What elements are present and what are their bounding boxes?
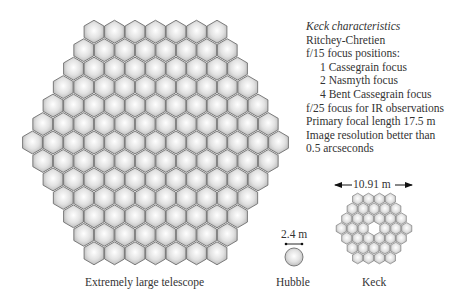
elt-segment (156, 186, 176, 209)
keck-characteristic-line: f/25 focus for IR observations (306, 102, 444, 116)
keck-characteristics-panel: Keck characteristics Ritchey-Chretienf/1… (306, 20, 444, 156)
elt-segment (146, 205, 166, 228)
elt-segment (238, 186, 258, 209)
elt-segment (94, 150, 114, 173)
elt-segment (156, 76, 176, 99)
elt-segment (228, 205, 248, 228)
keck-segment (363, 213, 373, 225)
keck-segment (396, 232, 406, 244)
elt-segment (146, 94, 166, 117)
keck-segment (358, 242, 368, 254)
elt-segment (84, 131, 104, 154)
keck-segment (358, 223, 368, 235)
elt-segment (238, 113, 258, 136)
elt-segment (105, 57, 125, 80)
elt-segment (217, 39, 237, 62)
keck-segment (353, 232, 363, 244)
elt-segment (197, 150, 217, 173)
elt-segment (43, 131, 63, 154)
elt-segment (115, 223, 135, 246)
elt-segment (207, 20, 227, 43)
keck-segment (374, 193, 384, 205)
elt-segment (84, 205, 104, 228)
keck-segment (363, 232, 373, 244)
elt-segment (94, 39, 114, 62)
elt-segment (207, 168, 227, 191)
elt-segment (176, 113, 196, 136)
elt-segment (105, 131, 125, 154)
elt-segment (207, 57, 227, 80)
elt-segment (217, 186, 237, 209)
elt-segment (74, 186, 94, 209)
elt-segment (94, 186, 114, 209)
elt-segment (84, 20, 104, 43)
keck-characteristic-line: 1 Cassegrain focus (306, 61, 444, 75)
elt-segment (146, 242, 166, 265)
elt-caption: Extremely large telescope (85, 276, 204, 288)
keck-segment (391, 203, 401, 215)
elt-segment (64, 168, 84, 191)
elt-segment (146, 57, 166, 80)
hubble-caption: Hubble (276, 276, 310, 288)
keck-characteristic-line: 0.5 arcseconds (306, 142, 444, 156)
elt-segment (176, 150, 196, 173)
keck-segment (347, 203, 357, 215)
elt-segment (105, 20, 125, 43)
keck-segment (342, 213, 352, 225)
elt-segment (217, 113, 237, 136)
keck-segment (369, 203, 379, 215)
elt-segment (43, 168, 63, 191)
elt-segment (74, 223, 94, 246)
elt-segment (187, 94, 207, 117)
elt-segment (105, 94, 125, 117)
keck-segment (358, 203, 368, 215)
elt-segment (197, 39, 217, 62)
elt-segment (146, 168, 166, 191)
elt-segment (74, 39, 94, 62)
elt-segment (135, 223, 155, 246)
elt-segment (187, 131, 207, 154)
elt-segment (53, 150, 73, 173)
keck-segment (391, 242, 401, 254)
elt-segment (207, 94, 227, 117)
elt-segment (166, 242, 186, 265)
keck-segment (342, 232, 352, 244)
elt-segment (94, 76, 114, 99)
elt-segment (228, 131, 248, 154)
elt-segment (176, 186, 196, 209)
elt-segment (187, 20, 207, 43)
elt-segment (105, 205, 125, 228)
elt-segment (33, 150, 53, 173)
elt-segment (53, 186, 73, 209)
elt-segment (74, 113, 94, 136)
elt-segment (217, 150, 237, 173)
keck-segment (391, 223, 401, 235)
keck-mirror-segments (336, 193, 412, 264)
elt-segment (84, 168, 104, 191)
keck-characteristic-line: Image resolution better than (306, 129, 444, 143)
elt-segment (64, 57, 84, 80)
keck-segment (385, 193, 395, 205)
keck-size-label: 10.91 m (353, 178, 391, 190)
keck-caption: Keck (362, 276, 386, 288)
elt-segment (187, 168, 207, 191)
elt-segment (207, 131, 227, 154)
elt-segment (156, 150, 176, 173)
hubble-size-arrow (285, 243, 304, 246)
elt-segment (217, 76, 237, 99)
elt-segment (248, 168, 268, 191)
elt-segment (248, 94, 268, 117)
elt-segment (64, 131, 84, 154)
elt-segment (238, 150, 258, 173)
keck-segment (385, 213, 395, 225)
keck-segment (363, 252, 373, 264)
elt-segment (74, 150, 94, 173)
elt-segment (115, 150, 135, 173)
elt-segment (146, 131, 166, 154)
elt-segment (135, 150, 155, 173)
elt-segment (135, 186, 155, 209)
elt-segment (105, 168, 125, 191)
elt-segment (197, 76, 217, 99)
elt-segment (176, 76, 196, 99)
elt-segment (197, 113, 217, 136)
